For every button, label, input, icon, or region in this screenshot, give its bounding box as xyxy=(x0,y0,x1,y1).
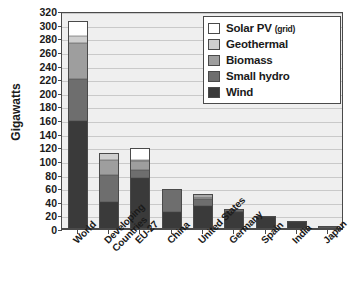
bar-world[interactable] xyxy=(68,21,88,229)
y-tick-mark xyxy=(58,162,62,163)
bar-segment-geothermal xyxy=(68,36,88,43)
y-tick-label: 160 xyxy=(27,116,57,126)
y-tick-mark xyxy=(58,94,62,95)
legend-swatch-geo-icon xyxy=(208,39,220,50)
y-tick-label: 20 xyxy=(27,211,57,221)
bar-segment-solar-pv-grid- xyxy=(130,148,150,160)
legend-item-solar[interactable]: Solar PV (grid) xyxy=(208,20,336,36)
y-tick-label: 180 xyxy=(27,102,57,112)
y-tick-mark xyxy=(58,148,62,149)
y-tick-label: 100 xyxy=(27,157,57,167)
legend-item-wind[interactable]: Wind xyxy=(208,84,336,100)
bar-segment-small-hydro xyxy=(99,175,119,202)
y-tick-label: 320 xyxy=(27,7,57,17)
bar-segment-wind xyxy=(68,121,88,229)
y-tick-mark xyxy=(58,12,62,13)
legend-sublabel: (grid) xyxy=(275,24,296,34)
legend-item-geo[interactable]: Geothermal xyxy=(208,36,336,52)
y-tick-mark xyxy=(58,53,62,54)
y-tick-label: 40 xyxy=(27,198,57,208)
legend-label: Geothermal xyxy=(226,38,288,50)
legend-item-hydro[interactable]: Small hydro xyxy=(208,68,336,84)
y-tick-label: 260 xyxy=(27,48,57,58)
y-tick-label: 300 xyxy=(27,21,57,31)
y-axis-tick-labels: 0204060801001201401601802002202402602803… xyxy=(27,0,57,291)
legend-swatch-biomass-icon xyxy=(208,55,220,66)
bar-segment-biomass xyxy=(68,43,88,79)
bar-segment-small-hydro xyxy=(130,170,150,177)
y-tick-label: 140 xyxy=(27,130,57,140)
bar-segment-geothermal xyxy=(99,153,119,160)
chart-legend: Solar PV (grid)GeothermalBiomassSmall hy… xyxy=(203,16,341,104)
bar-segment-small-hydro xyxy=(68,79,88,121)
y-tick-mark xyxy=(58,107,62,108)
legend-label: Solar PV (grid) xyxy=(226,22,295,34)
y-tick-mark xyxy=(58,135,62,136)
bar-segment-biomass xyxy=(99,160,119,174)
renewable-capacity-bar-chart: Gigawatts 020406080100120140160180200220… xyxy=(0,0,351,291)
legend-label: Small hydro xyxy=(226,70,290,82)
bar-developing-countries[interactable] xyxy=(99,153,119,229)
legend-item-biomass[interactable]: Biomass xyxy=(208,52,336,68)
legend-swatch-wind-icon xyxy=(208,87,220,98)
legend-label: Wind xyxy=(226,86,253,98)
legend-label: Biomass xyxy=(226,54,273,66)
y-tick-mark xyxy=(58,230,62,231)
y-tick-label: 0 xyxy=(27,225,57,235)
bar-segment-small-hydro xyxy=(162,189,182,212)
y-tick-label: 120 xyxy=(27,143,57,153)
y-tick-label: 60 xyxy=(27,184,57,194)
bar-segment-small-hydro xyxy=(193,199,213,206)
y-tick-mark xyxy=(58,189,62,190)
y-tick-mark xyxy=(58,121,62,122)
y-tick-label: 220 xyxy=(27,75,57,85)
y-axis-title: Gigawatts xyxy=(9,52,23,172)
legend-swatch-hydro-icon xyxy=(208,71,220,82)
y-tick-label: 80 xyxy=(27,171,57,181)
bar-segment-biomass xyxy=(130,161,150,171)
y-tick-mark xyxy=(58,67,62,68)
y-tick-label: 240 xyxy=(27,62,57,72)
y-tick-mark xyxy=(58,39,62,40)
y-tick-label: 280 xyxy=(27,34,57,44)
bar-segment-solar-pv-grid- xyxy=(68,21,88,36)
legend-swatch-solar-icon xyxy=(208,23,220,34)
y-tick-mark xyxy=(58,203,62,204)
y-tick-label: 200 xyxy=(27,89,57,99)
y-tick-mark xyxy=(58,176,62,177)
y-tick-mark xyxy=(58,26,62,27)
y-tick-mark xyxy=(58,216,62,217)
y-tick-mark xyxy=(58,80,62,81)
